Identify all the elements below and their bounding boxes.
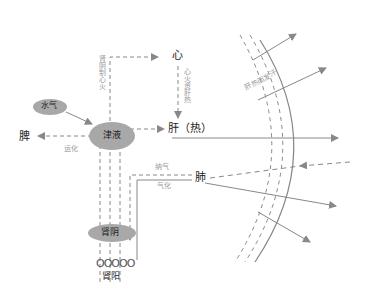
sweat-arrow-1 <box>253 34 296 60</box>
node-lung: 肺 <box>195 172 206 183</box>
kidney-yang-circles: OOOOO <box>96 258 134 269</box>
label-heart-fire-aids-liver-heat: 心火资肝热 <box>183 68 190 103</box>
node-liver: 肝（热） <box>168 123 212 134</box>
node-water-qi: 水气 <box>41 102 57 110</box>
diagram-canvas <box>0 0 369 304</box>
inner-dashed-arc-2 <box>235 35 272 262</box>
node-kidney-yang: 肾阳 <box>102 272 120 281</box>
external-to-lung-dashed <box>300 162 350 166</box>
lung-dashed-line <box>210 166 300 178</box>
qi-transform-solid <box>137 180 192 260</box>
kidney-to-heart-dashed <box>110 57 158 128</box>
node-fluids: 津液 <box>103 131 121 140</box>
inner-dashed-arc-1 <box>245 35 283 262</box>
node-kidney-yin: 肾阴 <box>101 228 119 237</box>
label-kidney-yin-controls-heart-fire: 肾阴制心火 <box>98 55 105 90</box>
lung-outgoing-arrow <box>205 183 336 206</box>
node-spleen: 脾 <box>19 131 30 142</box>
label-transport: 运化 <box>64 146 78 153</box>
lower-outgoing-arrow <box>258 212 310 242</box>
waterqi-to-fluids-arrow <box>66 112 92 124</box>
label-qi-transform: 气化 <box>157 183 171 190</box>
label-receive-qi: 纳气 <box>155 164 169 171</box>
node-heart: 心 <box>172 50 183 61</box>
